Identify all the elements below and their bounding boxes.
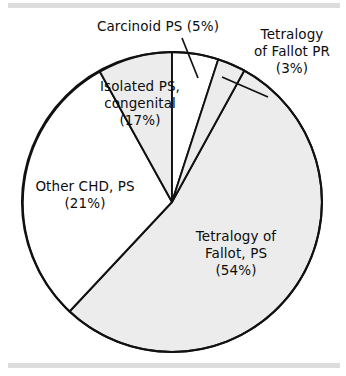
slice-label-tetralogy-of-fallot-pr-line-3: (3%): [240, 60, 344, 77]
slice-label-other-chd-ps-line-2: (21%): [12, 195, 158, 212]
slice-label-tetralogy-of-fallot-pr: Tetralogy of Fallot PR (3%): [240, 26, 344, 77]
slice-label-tetralogy-of-fallot-ps-line-3: (54%): [166, 262, 306, 279]
slice-label-isolated-ps-congenital-line-3: (17%): [78, 112, 202, 129]
slice-label-other-chd-ps-line-1: Other CHD, PS: [12, 178, 158, 195]
slice-label-carcinoid-ps: Carcinoid PS (5%): [78, 18, 238, 35]
slice-label-isolated-ps-congenital-line-1: Isolated PS,: [78, 78, 202, 95]
slice-label-other-chd-ps: Other CHD, PS (21%): [12, 178, 158, 212]
slice-label-isolated-ps-congenital-line-2: congenital: [78, 95, 202, 112]
slice-label-tetralogy-of-fallot-ps-line-2: Fallot, PS: [166, 245, 306, 262]
pie-chart-figure: Carcinoid PS (5%) Tetralogy of Fallot PR…: [0, 0, 346, 376]
slice-label-tetralogy-of-fallot-pr-line-2: of Fallot PR: [240, 43, 344, 60]
slice-label-tetralogy-of-fallot-ps-line-1: Tetralogy of: [166, 228, 306, 245]
bottom-divider-rule: [8, 363, 340, 368]
slice-label-tetralogy-of-fallot-ps: Tetralogy of Fallot, PS (54%): [166, 228, 306, 279]
slice-label-isolated-ps-congenital: Isolated PS, congenital (17%): [78, 78, 202, 129]
slice-label-tetralogy-of-fallot-pr-line-1: Tetralogy: [240, 26, 344, 43]
slice-label-carcinoid-ps-line-1: Carcinoid PS (5%): [78, 18, 238, 35]
